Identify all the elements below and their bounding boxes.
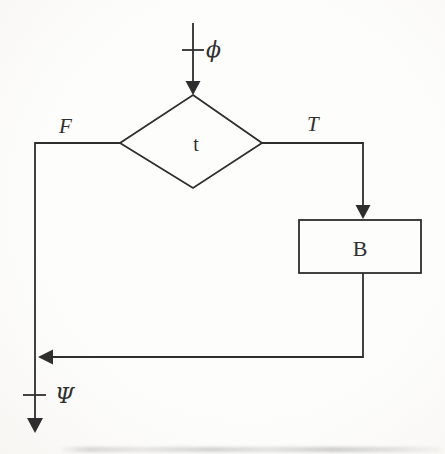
exit-assertion-label: Ψ [55, 383, 75, 408]
entry-arrowhead-icon [186, 81, 201, 95]
exit-arrowhead-icon [27, 418, 43, 433]
true-branch-label: T [307, 112, 320, 136]
entry-assertion-label: ϕ [206, 37, 221, 62]
return-line [52, 273, 363, 357]
false-branch-label: F [58, 114, 72, 138]
flowchart-figure: ϕ t F T B Ψ [0, 0, 445, 454]
caption-artifact [58, 447, 440, 452]
process-arrowhead-icon [356, 205, 371, 219]
false-branch-line [35, 143, 120, 419]
process-label: B [353, 236, 368, 261]
merge-arrowhead-icon [38, 350, 53, 365]
true-branch-line [262, 143, 363, 207]
decision-diamond [120, 95, 262, 188]
decision-label: t [193, 133, 199, 155]
flowchart-canvas: ϕ t F T B Ψ [0, 0, 445, 454]
